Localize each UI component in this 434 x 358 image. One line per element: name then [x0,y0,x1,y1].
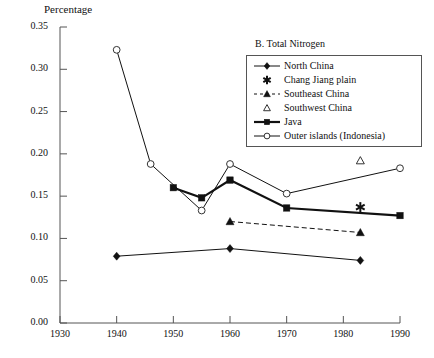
open-circle-line-icon [250,129,284,143]
filled-square-thick-line-icon [250,115,284,129]
series-southwest-china [356,157,364,164]
legend-item: Southeast China [250,87,417,101]
chart-container: Percentage B. Total Nitrogen 0.350.300.2… [0,0,434,358]
legend-item: Southwest China [250,101,417,115]
legend-item-label: Java [284,115,302,129]
y-tick-label: 0.25 [14,105,48,116]
x-tick-label: 1970 [267,328,307,339]
legend-item-label: Chang Jiang plain [284,73,356,87]
series-southeast-china [226,218,364,236]
x-tick-label: 1990 [380,328,420,339]
legend: North ChinaChang Jiang plainSoutheast Ch… [246,55,422,147]
y-axis-ticks [60,27,67,323]
legend-item-label: Southwest China [284,101,352,115]
legend-item: Chang Jiang plain [250,73,417,87]
x-tick-label: 1950 [153,328,193,339]
series-java [170,177,403,219]
legend-item-label: Southeast China [284,87,349,101]
x-axis-ticks [60,316,400,323]
filled-triangle-dashed-icon [250,87,284,101]
open-triangle-icon [250,101,284,115]
x-tick-label: 1960 [210,328,250,339]
y-tick-label: 0.10 [14,231,48,242]
x-tick-label: 1940 [97,328,137,339]
legend-item: Outer islands (Indonesia) [250,129,417,143]
asterisk-icon [250,73,284,87]
y-tick-label: 0.05 [14,274,48,285]
x-tick-label: 1980 [323,328,363,339]
legend-item-label: North China [284,59,334,73]
plot-area [0,0,434,358]
legend-item-label: Outer islands (Indonesia) [284,129,385,143]
y-tick-label: 0.00 [14,316,48,327]
x-tick-label: 1930 [40,328,80,339]
filled-diamond-line-icon [250,59,284,73]
y-tick-label: 0.15 [14,189,48,200]
series-chang-jiang-plain [356,202,365,212]
series-north-china [113,245,363,265]
legend-item: Java [250,115,417,129]
y-tick-label: 0.35 [14,20,48,31]
y-tick-label: 0.20 [14,147,48,158]
y-tick-label: 0.30 [14,62,48,73]
legend-item: North China [250,59,417,73]
